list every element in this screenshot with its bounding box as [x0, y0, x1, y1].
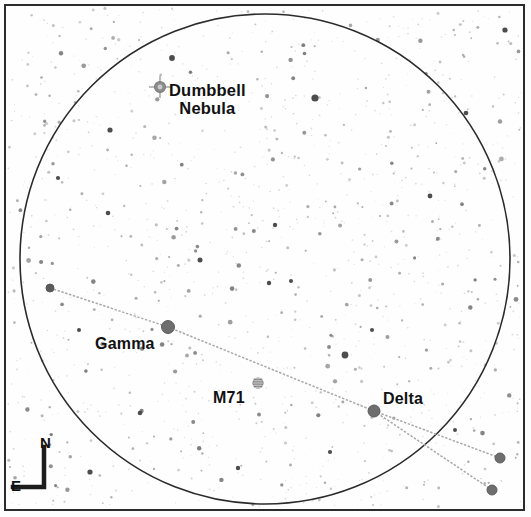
label-dumbbell-nebula: DumbbellNebula [169, 81, 246, 118]
label-delta: Delta [383, 390, 423, 408]
chart-border [4, 4, 525, 511]
compass-north-label: N [40, 435, 51, 452]
label-dumbbell-line-1: Nebula [169, 99, 246, 117]
label-gamma: Gamma [95, 335, 155, 353]
compass-east-label: E [11, 478, 21, 495]
label-dumbbell-line-0: Dumbbell [169, 81, 246, 99]
star-chart: DumbbellNebula Gamma M71 Delta N E [0, 0, 531, 517]
label-m71: M71 [213, 389, 245, 407]
